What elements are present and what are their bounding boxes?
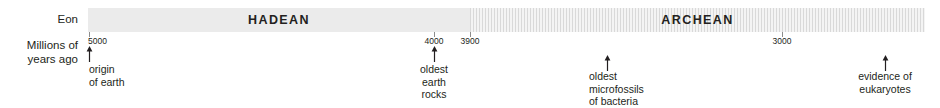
event-label-line: evidence of	[858, 70, 912, 83]
up-arrow-icon	[430, 46, 439, 62]
scale-label-line-2: years ago	[27, 53, 78, 67]
eon-bar: HADEANARCHEAN	[88, 8, 925, 32]
event-label-origin-of-earth: originof earth	[89, 63, 125, 88]
axis-tick-label-5000: 5000	[88, 36, 107, 46]
eon-row-label-text: Eon	[58, 13, 78, 25]
up-arrow-icon	[85, 46, 94, 62]
event-label-line: of bacteria	[589, 95, 644, 108]
event-label-line: rocks	[420, 88, 448, 101]
scale-label-line-1: Millions of	[27, 39, 78, 53]
event-label-evidence-of-eukaryotes: evidence ofeukaryotes	[858, 70, 912, 95]
geologic-timeline-figure: Eon Millions of years ago HADEANARCHEAN …	[0, 0, 940, 108]
axis-tick-label-4000: 4000	[425, 36, 444, 46]
eon-name-label: HADEAN	[248, 13, 310, 27]
event-label-line: oldest	[589, 70, 644, 83]
eon-name-label: ARCHEAN	[661, 13, 733, 27]
millions-of-years-ago-row-label: Millions of years ago	[27, 39, 78, 66]
axis-tick-label-3000: 3000	[773, 36, 792, 46]
up-arrow-icon	[881, 55, 890, 71]
event-label-line: microfossils	[589, 83, 644, 96]
axis-tick-label-3900: 3900	[461, 36, 480, 46]
event-label-line: oldest	[420, 63, 448, 76]
event-label-line: earth	[420, 76, 448, 89]
event-label-oldest-microfossils-of-bacteria: oldestmicrofossilsof bacteria	[589, 70, 644, 108]
event-label-line: of earth	[89, 76, 125, 89]
eon-segment-archean: ARCHEAN	[470, 8, 925, 32]
event-label-line: origin	[89, 63, 125, 76]
eon-row-label: Eon	[58, 13, 78, 27]
up-arrow-icon	[603, 55, 612, 71]
event-label-line: eukaryotes	[858, 83, 912, 96]
eon-segment-hadean: HADEAN	[88, 8, 470, 32]
event-label-oldest-earth-rocks: oldestearthrocks	[420, 63, 448, 101]
